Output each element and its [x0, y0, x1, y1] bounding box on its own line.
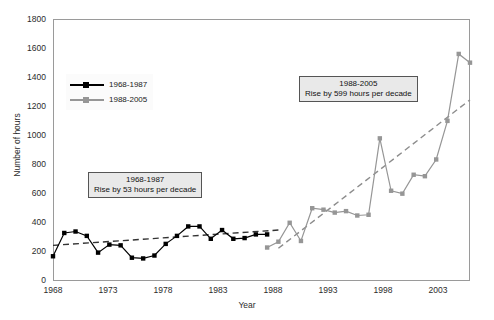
y-axis-tick-1200: 1200: [2, 102, 46, 111]
y-axis-tick-1400: 1400: [2, 73, 46, 82]
y-axis-tick-1000: 1000: [2, 131, 46, 140]
annotation-1968-1987-line2: Rise by 53 hours per decade: [94, 185, 196, 195]
y-axis-tick-1800: 1800: [2, 15, 46, 24]
x-axis-tick-1998: 1998: [363, 286, 403, 295]
legend-item-1968-1987: 1968-1987: [70, 77, 147, 92]
x-axis-tick-1983: 1983: [198, 286, 238, 295]
y-axis-tick-800: 800: [2, 160, 46, 169]
x-axis-tick-1988: 1988: [253, 286, 293, 295]
legend-swatch-1968-1987: [70, 79, 104, 90]
y-axis-tick-600: 600: [2, 189, 46, 198]
legend-swatch-1988-2005: [70, 94, 104, 105]
legend-label-1988-2005: 1988-2005: [109, 95, 147, 104]
annotation-1988-2005-line2: Rise by 599 hours per decade: [305, 89, 412, 99]
y-axis-tick-1600: 1600: [2, 44, 46, 53]
y-axis-tick-200: 200: [2, 247, 46, 256]
y-axis-tick-0: 0: [2, 276, 46, 285]
legend: 1968-1987 1988-2005: [66, 74, 153, 110]
annotation-1968-1987-line1: 1968-1987: [126, 175, 164, 184]
x-axis-tick-1968: 1968: [33, 286, 73, 295]
x-axis-tick-1978: 1978: [143, 286, 183, 295]
legend-label-1968-1987: 1968-1987: [109, 80, 147, 89]
plot-area: [53, 19, 470, 281]
legend-item-1988-2005: 1988-2005: [70, 92, 147, 107]
annotation-1968-1987: 1968-1987 Rise by 53 hours per decade: [88, 172, 202, 198]
x-axis-tick-2003: 2003: [418, 286, 458, 295]
y-axis-tick-400: 400: [2, 218, 46, 227]
annotation-1988-2005-line1: 1988-2005: [339, 79, 377, 88]
annotation-1988-2005: 1988-2005 Rise by 599 hours per decade: [299, 76, 418, 102]
x-axis-tick-1993: 1993: [308, 286, 348, 295]
x-axis-tick-1973: 1973: [88, 286, 128, 295]
chart-container: 1800 1600 1400 1200 1000 800 600 400 200…: [0, 0, 494, 320]
y-axis-title: Number of hours: [12, 90, 22, 200]
x-axis-title: Year: [0, 300, 494, 310]
